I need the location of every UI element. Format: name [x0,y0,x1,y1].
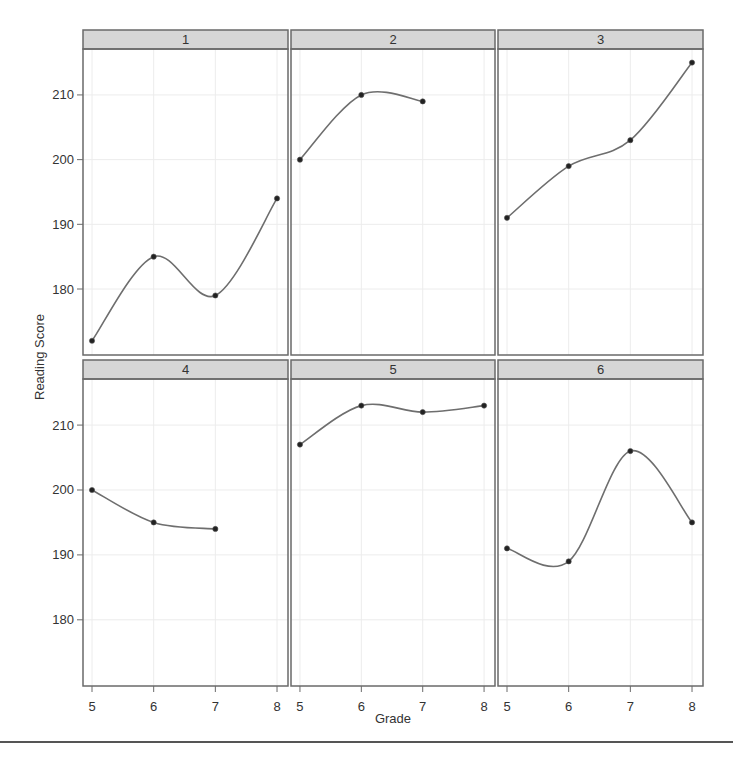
series-line [507,451,692,567]
panels: 123456 [83,30,703,686]
y-axis: 180190200210180190200210 [52,87,83,627]
data-point [566,559,571,564]
x-tick-label: 6 [565,699,572,714]
data-point [504,546,509,551]
x-axis: 567856785678 [88,686,695,714]
y-tick-label: 210 [52,87,74,102]
data-point [297,157,302,162]
x-tick-label: 6 [150,699,157,714]
x-tick-label: 7 [212,699,219,714]
y-axis-label: Reading Score [32,314,47,400]
x-tick-label: 7 [419,699,426,714]
data-point [89,338,94,343]
x-tick-label: 5 [88,699,95,714]
x-tick-label: 5 [296,699,303,714]
y-tick-label: 190 [52,547,74,562]
y-tick-label: 200 [52,152,74,167]
series-line [507,63,692,218]
data-point [213,526,218,531]
data-point [504,215,509,220]
data-point [274,196,279,201]
lattice-chart: 123456 180190200210180190200210 56785678… [0,0,733,759]
panel-5: 5 [291,360,495,686]
panel-2: 2 [291,30,495,355]
x-axis-label: Grade [375,711,411,726]
data-point [420,410,425,415]
panel-strip-label: 3 [597,32,604,47]
x-tick-label: 8 [273,699,280,714]
panel-4: 4 [83,360,288,686]
y-tick-label: 210 [52,418,74,433]
y-tick-label: 180 [52,282,74,297]
data-point [359,92,364,97]
data-point [151,520,156,525]
bottom-rule [0,741,733,743]
panel-strip-label: 4 [182,362,189,377]
data-point [297,442,302,447]
data-point [628,138,633,143]
x-tick-label: 7 [627,699,634,714]
data-point [420,99,425,104]
y-tick-label: 190 [52,217,74,232]
series-line [300,404,484,444]
panel-6: 6 [498,360,703,686]
series-line [92,198,277,340]
x-tick-label: 8 [688,699,695,714]
data-point [566,163,571,168]
data-point [689,520,694,525]
panel-strip-label: 5 [389,362,396,377]
x-tick-label: 8 [480,699,487,714]
panel-3: 3 [498,30,703,355]
data-point [213,293,218,298]
data-point [151,254,156,259]
data-point [359,403,364,408]
panel-1: 1 [83,30,288,355]
panel-strip-label: 6 [597,362,604,377]
panel-strip-label: 1 [182,32,189,47]
data-point [89,487,94,492]
data-point [689,60,694,65]
data-point [628,448,633,453]
x-tick-label: 6 [358,699,365,714]
x-tick-label: 5 [503,699,510,714]
data-point [481,403,486,408]
y-tick-label: 200 [52,482,74,497]
panel-strip-label: 2 [389,32,396,47]
y-tick-label: 180 [52,612,74,627]
